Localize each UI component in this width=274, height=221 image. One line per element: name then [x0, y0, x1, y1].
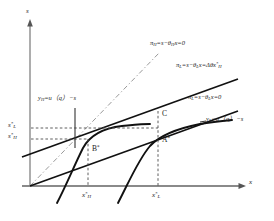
x-tick-xL-sub: L	[158, 194, 161, 199]
y-L-indifference-curve	[118, 120, 232, 203]
y-axis-arrow	[27, 19, 33, 27]
point-B-star: *	[97, 144, 100, 150]
equation-label-pi-L-zero: πL=s−θLx=0	[188, 94, 221, 102]
x-tick-label-xH: x*H	[82, 192, 91, 200]
diagram-canvas	[0, 0, 274, 221]
equation-label-y-H: yH=u（q）−s	[38, 95, 76, 103]
point-label-A: A*	[162, 136, 170, 144]
equation-label-pi-H-zero: πH=s−θHx=0	[150, 40, 185, 48]
x-tick-xH-sub: H	[88, 194, 92, 199]
point-A-star: *	[167, 135, 170, 141]
equation-label-pi-L-delta: πL=s−θLx=Δθx*H	[176, 62, 222, 70]
y-tick-sL-sub: L	[13, 124, 16, 129]
y-axis-label: s	[26, 8, 29, 15]
x-axis-label: x	[249, 179, 252, 186]
point-C-name: C	[162, 109, 167, 118]
x-tick-label-xL: x*L	[152, 192, 160, 200]
y-tick-sH-sub: H	[13, 135, 17, 140]
screening-diagram: s x s*L s*H x*H x*L B* C A* πH=s−θHx=0 π…	[0, 0, 274, 221]
point-label-B: B*	[92, 145, 100, 153]
axes-group	[22, 19, 246, 189]
pi-H-zero-line	[30, 52, 160, 186]
point-label-C: C	[162, 110, 167, 118]
equation-label-y-L: yL=u（q）−s	[206, 116, 243, 124]
y-tick-label-sL: s*L	[8, 122, 16, 130]
y-H-indifference-curve	[57, 124, 150, 203]
y-tick-label-sH: s*H	[8, 133, 17, 141]
x-axis-arrow	[239, 183, 247, 189]
